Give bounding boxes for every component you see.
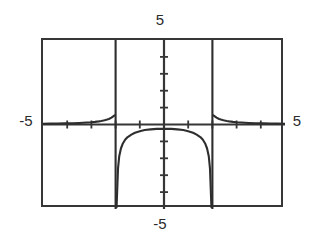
- axis-label-top: 5: [0, 12, 320, 27]
- axis-label-right: 5: [286, 113, 308, 128]
- axis-label-bottom: -5: [0, 216, 320, 231]
- curve-right-branch: [213, 115, 285, 123]
- curve-left-branch: [43, 115, 115, 123]
- graph-figure: 5 -5 5 -5: [0, 0, 320, 239]
- axis-label-left: -5: [12, 113, 40, 128]
- plot-frame: [41, 38, 283, 207]
- plot-canvas: [43, 40, 285, 209]
- axes-group: [43, 40, 285, 209]
